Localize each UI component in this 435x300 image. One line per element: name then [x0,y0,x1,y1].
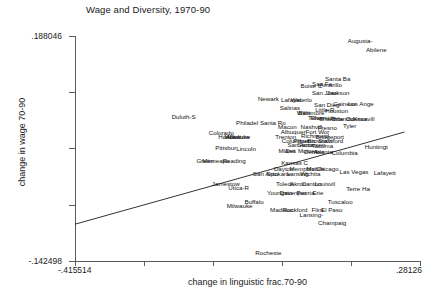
x-tick-label-max: .28126 [396,265,422,275]
x-axis-line [75,261,420,262]
x-tick-4 [282,261,283,266]
x-tick-label-min: -.415514 [58,265,92,275]
x-tick-5 [351,261,352,266]
data-point-label: Newark [258,96,279,102]
plot-area: Augusta-AbileneSanta BaSan FeAmarilloBoi… [75,36,420,261]
data-point-label: Amarillo [320,82,342,88]
data-point-label: Augusta- [348,38,373,44]
data-point-label: Reading [223,158,246,164]
data-point-label: Tyler [343,122,356,128]
data-point-label: Louisvil [314,181,335,187]
data-point-label: Tuscaloo [328,199,353,205]
x-tick-3 [213,261,214,266]
chart-title: Wage and Diversity, 1970-90 [86,4,210,15]
data-point-label: Houston [325,108,348,114]
data-point-label: Rocheste [255,250,281,256]
data-point-label: Lincoln [236,146,256,152]
data-point-label: Jackson [327,89,350,95]
data-point-label: Columbia [332,150,358,156]
data-point-label: Duluth-S [172,114,196,120]
data-point-label: Lansing- [300,212,324,218]
y-axis-title: change in wage 70-90 [17,72,27,212]
data-point-label: Las Vegas [340,168,369,174]
data-point-label: Utica-R [228,185,249,191]
data-point-label: Philadel [236,120,258,126]
x-tick-2 [144,261,145,266]
data-point-label: Lafayett [374,170,396,176]
data-point-label: Allentow [226,134,249,140]
data-point-label: Milwauke [227,203,253,209]
data-point-label: Pittsbur [215,145,236,151]
data-point-label: El Paso [321,207,342,213]
data-point-label: Champaig [318,220,346,226]
x-axis-title: change in linguistic frac.70-90 [75,277,420,287]
y-tick-label-min: -.142498 [28,256,62,266]
data-point-label: Abilene [366,46,387,52]
data-point-label: Terre Ha [346,186,370,192]
data-point-label: Los Ange [348,101,374,107]
data-point-label: Waterlo [291,97,312,103]
data-point-label: Knoxvill [353,116,374,122]
data-point-label: Huntingt [365,144,388,150]
y-tick-label-max: .188046 [31,31,62,41]
data-point-label: Atlanta [314,149,333,155]
data-point-label: Wichita [300,171,320,177]
data-point-label: Erie [312,190,323,196]
chart-root: Wage and Diversity, 1970-90 .188046 -.14… [0,0,435,300]
